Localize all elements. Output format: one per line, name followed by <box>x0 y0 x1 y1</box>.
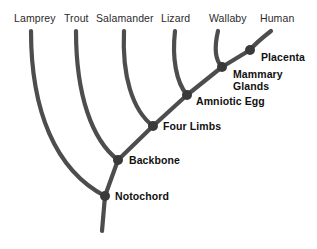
trait-label-mammary-glands: Mammary Glands <box>233 69 283 92</box>
trait-label-placenta: Placenta <box>261 52 305 64</box>
taxon-label-human: Human <box>260 12 294 24</box>
tree-branches-svg <box>0 0 317 249</box>
trait-label-four-limbs: Four Limbs <box>163 121 221 133</box>
lamprey-branch <box>31 31 105 196</box>
taxon-label-lizard: Lizard <box>161 12 190 24</box>
trait-node-amniotic-egg <box>182 90 192 100</box>
root-stem <box>102 196 105 231</box>
trait-label-amniotic-egg: Amniotic Egg <box>196 96 265 108</box>
trait-node-notochord <box>100 191 110 201</box>
salamander-branch <box>124 31 153 126</box>
trait-label-notochord: Notochord <box>115 191 169 203</box>
taxon-label-wallaby: Wallaby <box>209 12 247 24</box>
trait-node-backbone <box>113 155 123 165</box>
trait-node-four-limbs <box>148 121 158 131</box>
wallaby-branch <box>216 31 222 67</box>
taxon-label-trout: Trout <box>64 12 89 24</box>
cladogram-diagram: LampreyTroutSalamanderLizardWallabyHuman… <box>0 0 317 249</box>
lizard-branch <box>174 31 187 95</box>
trait-node-mammary-glands <box>217 62 227 72</box>
trait-label-backbone: Backbone <box>129 155 180 167</box>
trout-branch <box>76 31 118 160</box>
trait-node-placenta <box>245 45 255 55</box>
taxon-label-lamprey: Lamprey <box>14 12 56 24</box>
spine-amniotic-mammary <box>187 67 222 95</box>
taxon-label-salamander: Salamander <box>96 12 154 24</box>
